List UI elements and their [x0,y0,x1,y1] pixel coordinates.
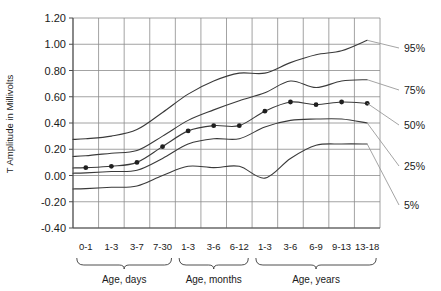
legend-label-95pct: 95% [404,42,425,54]
x-tick-label: 6-9 [309,241,323,252]
data-point-marker [237,123,242,128]
category-group-label: Age, days [102,274,146,285]
x-tick-label: 3-7 [130,241,144,252]
data-point-marker [288,100,293,105]
x-tick-label: 1-3 [181,241,195,252]
data-point-marker [83,165,88,170]
chart-container: 1.201.000.800.600.400.200.00-0.20-0.40 0… [0,0,441,291]
legend-label-5pct: 5% [404,199,419,211]
percentile-line-chart: 1.201.000.800.600.400.200.00-0.20-0.40 0… [0,0,441,291]
y-tick-label: -0.40 [41,222,66,234]
category-group-label: Age, years [292,274,340,285]
x-tick-label: 13-18 [355,241,379,252]
y-tick-label: -0.20 [41,196,66,208]
data-point-marker [314,102,319,107]
y-tick-label: 1.20 [45,12,66,24]
x-tick-label: 6-12 [230,241,249,252]
data-point-marker [339,100,344,105]
category-group-label: Age, months [186,274,242,285]
x-tick-label: 9-13 [332,241,351,252]
x-tick-label: 1-3 [258,241,272,252]
x-tick-label: 3-6 [284,241,298,252]
x-tick-label: 7-30 [153,241,172,252]
legend-label-25pct: 25% [404,160,425,172]
data-point-marker [109,164,114,169]
x-tick-label: 1-3 [105,241,119,252]
data-point-marker [160,144,165,149]
y-tick-label: 1.00 [45,38,66,50]
data-point-marker [186,128,191,133]
y-tick-label: 0.80 [45,65,66,77]
y-tick-label: 0.20 [45,143,66,155]
x-tick-label: 0-1 [79,241,93,252]
y-tick-label: 0.00 [45,170,66,182]
legend-label-75pct: 75% [404,84,425,96]
legend-label-50pct: 50% [404,119,425,131]
y-tick-label: 0.40 [45,117,66,129]
y-tick-label: 0.60 [45,91,66,103]
data-point-marker [262,109,267,114]
data-point-marker [211,123,216,128]
y-axis-title: T Amplitude in Millivolts [4,74,15,173]
x-tick-label: 3-6 [207,241,221,252]
data-point-marker [135,160,140,165]
